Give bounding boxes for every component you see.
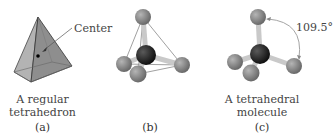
caption-c: A tetrahedral molecule [220,93,304,119]
center-label: Center [74,22,112,35]
outer-atom [227,54,243,70]
label-c: (c) [220,121,304,134]
angle-label: 109.5° [296,21,333,34]
outer-atom [116,56,132,72]
label-a: (a) [0,121,85,134]
outer-atom [243,65,260,82]
center-atom [136,45,156,65]
outer-atom [286,58,302,74]
ball-stick-in-tetrahedron [110,0,220,139]
outer-atom [130,66,147,83]
label-b: (b) [110,121,190,134]
outer-atom [135,9,151,25]
center-point [36,54,40,58]
panel-b: (b) [110,0,220,139]
caption-a-line1: A regular [0,93,85,106]
angle-arc [268,19,300,58]
caption-a: A regular tetrahedron [0,93,85,119]
panel-c: 109.5° A tetrahedral molecule (c) [220,0,336,139]
caption-c-line2: molecule [220,106,304,119]
panel-a: Center A regular tetrahedron (a) [0,0,115,139]
outer-atom [174,57,190,73]
caption-a-line2: tetrahedron [0,106,85,119]
center-atom [250,44,270,64]
outer-atom [250,9,266,25]
caption-c-line1: A tetrahedral [220,93,304,106]
